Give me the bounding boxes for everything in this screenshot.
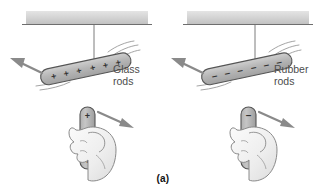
hand-holding-rubber-rod: – – –: [230, 107, 295, 181]
figure-caption: (a): [0, 173, 326, 184]
electrostatic-repulsion-figure: + + + + + + + + +: [0, 0, 326, 192]
glass-rods-label: Glass rods: [113, 64, 140, 87]
arrow-head: [171, 58, 186, 68]
repulsion-arrow-left: [10, 58, 42, 73]
hand-holding-glass-rod: + + +: [69, 107, 134, 181]
charge-plus: +: [85, 111, 90, 121]
repulsion-arrow-left: [171, 58, 203, 73]
rubber-panel: – – – – – – – – –: [171, 11, 313, 181]
ceiling-bar: [187, 11, 309, 24]
force-arrow-left-hand: [98, 112, 134, 128]
force-arrow-right-hand: [259, 112, 295, 128]
glass-panel: + + + + + + + + +: [10, 11, 152, 181]
arrow-head: [280, 118, 295, 128]
arrow-head: [119, 118, 134, 128]
ceiling-bar: [26, 11, 148, 24]
ceiling-support-left: [22, 11, 152, 25]
ceiling-support-right: [183, 11, 313, 25]
arrow-head: [10, 58, 25, 68]
rubber-rods-label: Rubber rods: [274, 64, 308, 87]
charge-minus: –: [246, 110, 252, 121]
